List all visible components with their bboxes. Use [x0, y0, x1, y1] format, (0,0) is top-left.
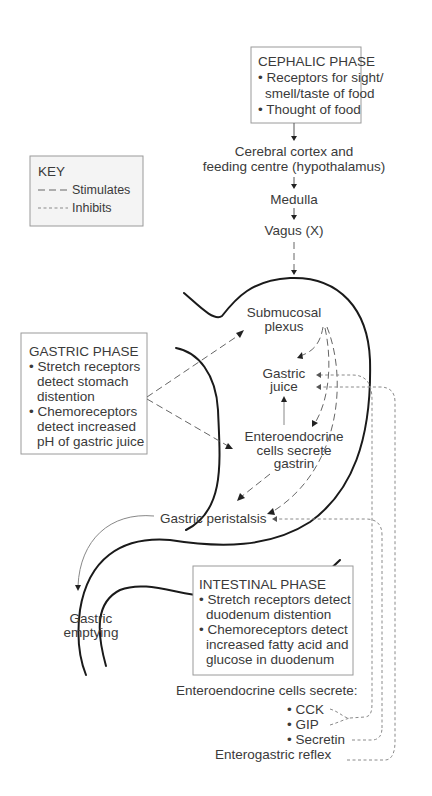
arrowhead	[291, 184, 297, 189]
enteroendocrine-label-1: Enteroendocrine	[244, 429, 343, 444]
key-title: KEY	[38, 164, 65, 179]
cephalic-line: smell/taste of food	[265, 86, 375, 101]
arrowhead	[291, 270, 297, 275]
arrowhead	[281, 396, 287, 402]
arrowhead	[316, 384, 321, 390]
secretion-secretin: • Secretin	[287, 732, 345, 747]
intestinal-line: increased fatty acid and	[206, 637, 349, 652]
gastric-line: detect stomach	[37, 374, 129, 389]
arrowhead	[267, 508, 275, 515]
secretion-gip: • GIP	[287, 717, 319, 732]
cephalic-line: • Receptors for sight/	[258, 70, 384, 85]
secretions-heading: Enteroendocrine cells secrete:	[176, 683, 358, 698]
arrowhead	[75, 585, 81, 591]
arrowhead	[225, 443, 233, 449]
arrow-gastrin-to-peristalsis	[241, 474, 270, 497]
gastric-emptying-label-2: emptying	[64, 625, 119, 640]
submucosal-plexus-label-1: Submucosal	[247, 305, 321, 320]
arrow-gastric-to-enteroendocrine	[147, 399, 228, 446]
arrow-gastric-to-submucosal	[147, 333, 242, 397]
arrowhead	[316, 372, 321, 378]
inhibit-gip-merge	[330, 718, 350, 725]
arrowhead	[297, 352, 303, 359]
arrowhead	[291, 215, 297, 220]
key-inhibits: Inhibits	[72, 201, 112, 215]
intestinal-phase-box: INTESTINAL PHASE • Stretch receptors det…	[193, 566, 353, 675]
submucosal-plexus-label-2: plexus	[264, 319, 303, 334]
cortex-label-1: Cerebral cortex and	[235, 144, 354, 159]
cortex-label-2: feeding centre (hypothalamus)	[203, 159, 385, 174]
cephalic-line: • Thought of food	[258, 102, 361, 117]
intestinal-line: duodenum distention	[206, 607, 331, 622]
arrowhead	[272, 516, 277, 522]
gastric-peristalsis-label: Gastric peristalsis	[160, 511, 267, 526]
inhibit-cck-merge	[330, 709, 350, 718]
gastric-emptying-label-1: Gastric	[70, 611, 113, 626]
gastric-line: detect increased	[37, 419, 136, 434]
key-stimulates: Stimulates	[72, 183, 130, 197]
gastric-line: distention	[37, 389, 95, 404]
gastric-line: • Chemoreceptors	[29, 404, 138, 419]
medulla-label: Medulla	[270, 192, 318, 207]
enteroendocrine-label-3: gastrin	[274, 456, 315, 471]
secretion-cck: • CCK	[287, 702, 324, 717]
gastric-line: • Stretch receptors	[29, 359, 141, 374]
enterogastric-reflex-label: Enterogastric reflex	[215, 747, 332, 762]
intestinal-line: • Stretch receptors detect	[199, 592, 351, 607]
gastric-phase-box: GASTRIC PHASE • Stretch receptors detect…	[21, 333, 147, 454]
arrowhead	[291, 136, 297, 141]
intestinal-line: glucose in duodenum	[206, 652, 334, 667]
cephalic-title: CEPHALIC PHASE	[258, 54, 375, 69]
cephalic-phase-box: CEPHALIC PHASE • Receptors for sight/ sm…	[251, 47, 384, 123]
gastric-line: pH of gastric juice	[37, 434, 144, 449]
arrowhead	[312, 420, 318, 427]
key-legend: KEY Stimulates Inhibits	[30, 156, 143, 226]
gastric-title: GASTRIC PHASE	[29, 344, 139, 359]
vagus-label: Vagus (X)	[264, 223, 323, 238]
intestinal-title: INTESTINAL PHASE	[199, 577, 326, 592]
arrowhead	[236, 330, 244, 338]
gastric-secretion-phases-diagram: KEY Stimulates Inhibits CEPHALIC PHASE •…	[0, 0, 432, 796]
inhibit-secretin-merge	[352, 728, 382, 740]
gastric-juice-label-2: juice	[269, 379, 298, 394]
intestinal-line: • Chemoreceptors detect	[199, 622, 348, 637]
